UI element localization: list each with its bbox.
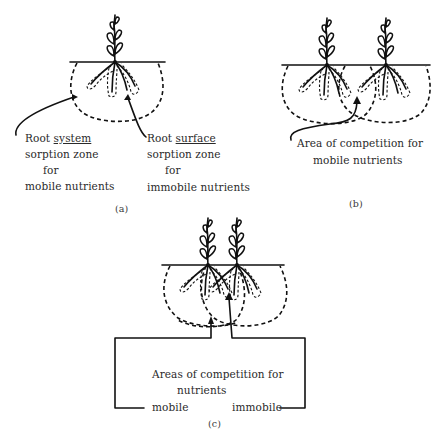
plant-icon (229, 218, 244, 267)
label-mobile: mobile (152, 401, 189, 413)
caption-b: (b) (349, 198, 363, 210)
label-mobile-nutrients: mobile nutrients (313, 154, 403, 166)
plant-icon (319, 18, 334, 67)
root-system-zone (71, 63, 163, 121)
caption-a: (a) (115, 203, 128, 215)
plant-icon (378, 18, 393, 67)
pointer-arrow (291, 102, 357, 140)
label-for: for (165, 164, 181, 176)
root-surface-zone (87, 62, 139, 97)
panel-a (16, 15, 165, 137)
plant-icon (107, 15, 122, 64)
label-sorption-zone: sorption zone (25, 148, 99, 160)
label-areas-of-competition: Areas of competition for (152, 368, 284, 380)
label-mobile-nutrients: mobile nutrients (25, 180, 115, 192)
label-root-system: Root system (25, 132, 91, 144)
label-area-of-competition: Area of competition for (297, 137, 423, 149)
panel-b (282, 18, 430, 140)
label-immobile: immobile (232, 401, 282, 413)
label-root-surface: Root surface (147, 132, 216, 144)
label-immobile-nutrients: immobile nutrients (147, 181, 250, 193)
caption-c: (c) (208, 418, 221, 430)
pointer-arrow (128, 98, 146, 137)
label-for: for (43, 164, 59, 176)
left-root-zone (282, 66, 376, 124)
pointer-arrow (16, 97, 74, 135)
label-nutrients: nutrients (177, 384, 227, 396)
label-sorption-zone: sorption zone (147, 148, 221, 160)
plant-icon (200, 218, 215, 267)
